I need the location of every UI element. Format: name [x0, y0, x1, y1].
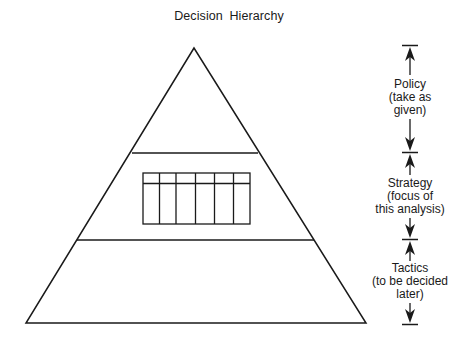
label-strategy: Strategy (focus of this analysis) [355, 177, 465, 216]
label-policy-line: given) [355, 104, 465, 117]
strategy-grid [143, 173, 250, 224]
label-tactics: Tactics (to be decided later) [355, 262, 465, 301]
label-policy: Policy (take as given) [355, 78, 465, 117]
label-strategy-line: this analysis) [355, 203, 465, 216]
label-tactics-line: later) [355, 288, 465, 301]
